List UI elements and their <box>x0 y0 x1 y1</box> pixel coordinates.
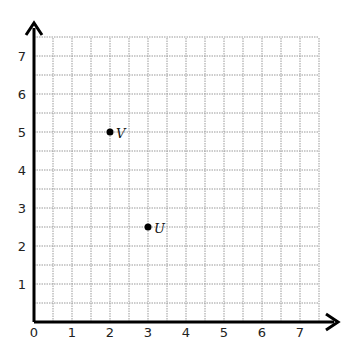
x-tick-label: 3 <box>144 325 152 340</box>
x-tick-label: 1 <box>68 325 76 340</box>
y-tick-label: 6 <box>18 87 26 102</box>
y-tick-label: 4 <box>18 163 26 178</box>
y-tick-label: 3 <box>18 201 26 216</box>
plotted-points: VU <box>107 126 167 236</box>
y-tick-label: 2 <box>18 239 26 254</box>
x-tick-label: 7 <box>296 325 304 340</box>
y-tick-label: 5 <box>18 125 26 140</box>
x-tick-label: 4 <box>182 325 190 340</box>
y-tick-label: 1 <box>18 277 26 292</box>
point-u-dot <box>145 224 152 231</box>
y-axis-tick-labels: 1234567 <box>18 49 26 292</box>
x-tick-label: 0 <box>30 325 38 340</box>
x-tick-label: 6 <box>258 325 266 340</box>
x-tick-label: 2 <box>106 325 114 340</box>
x-tick-label: 5 <box>220 325 228 340</box>
point-v-dot <box>107 129 114 136</box>
point-label-v: V <box>116 126 127 141</box>
point-label-u: U <box>154 221 166 236</box>
y-tick-label: 7 <box>18 49 26 64</box>
grid-lines <box>34 37 319 322</box>
coordinate-plane: 01234567 1234567 VU <box>0 0 356 354</box>
x-axis-tick-labels: 01234567 <box>30 325 304 340</box>
